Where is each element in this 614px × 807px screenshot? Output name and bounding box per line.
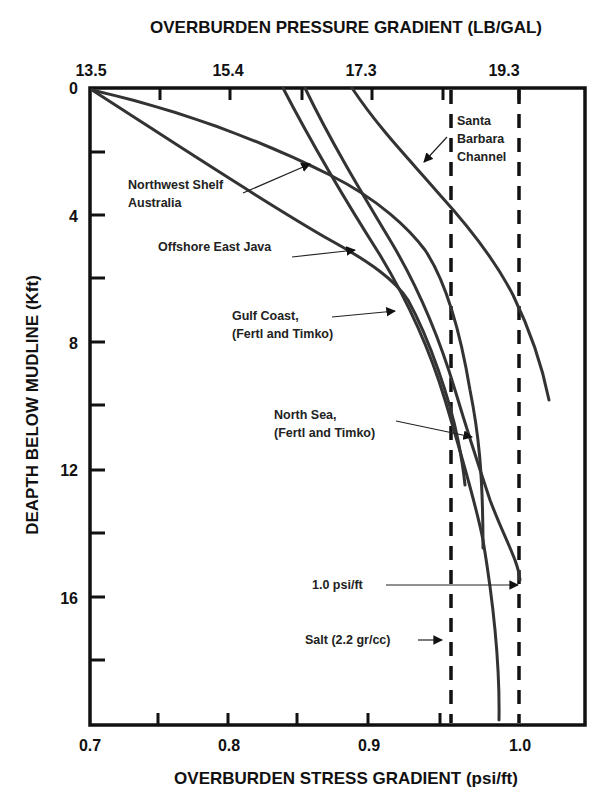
bottom-tick-label: 0.9 bbox=[358, 737, 380, 754]
label-north-sea-2: (Fertl and Timko) bbox=[274, 426, 375, 440]
label-east-java: Offshore East Java bbox=[158, 240, 272, 254]
label-salt: Salt (2.2 gr/cc) bbox=[305, 633, 390, 647]
arrow-nw-shelf bbox=[243, 164, 310, 193]
label-one-psi: 1.0 psi/ft bbox=[312, 578, 364, 592]
arrow-gulf-coast bbox=[332, 311, 395, 317]
curve-gulf-coast bbox=[283, 88, 499, 720]
top-ticks bbox=[160, 88, 519, 100]
y-tick-label: 0 bbox=[69, 80, 78, 97]
arrow-santa-barbara bbox=[424, 137, 447, 162]
label-gulf-coast-1: Gulf Coast, bbox=[232, 309, 299, 323]
arrow-north-sea bbox=[396, 421, 472, 437]
bottom-tick-label: 0.8 bbox=[218, 737, 240, 754]
top-tick-label: 15.4 bbox=[212, 62, 243, 79]
label-santa-barbara-3: Channel bbox=[457, 150, 506, 164]
label-santa-barbara-2: Barbara bbox=[457, 132, 505, 146]
top-axis-title: OVERBURDEN PRESSURE GRADIENT (LB/GAL) bbox=[150, 18, 542, 37]
overburden-chart: OVERBURDEN PRESSURE GRADIENT (LB/GAL) OV… bbox=[0, 0, 614, 807]
y-tick-label: 12 bbox=[60, 462, 78, 479]
label-gulf-coast-2: (Fertl and Timko) bbox=[232, 327, 333, 341]
label-north-sea-1: North Sea, bbox=[274, 408, 337, 422]
bottom-ticks bbox=[158, 713, 440, 725]
left-ticks bbox=[90, 152, 105, 660]
y-tick-label: 16 bbox=[60, 590, 78, 607]
bottom-tick-label: 0.7 bbox=[79, 737, 101, 754]
top-tick-label: 19.3 bbox=[488, 62, 519, 79]
y-tick-label: 8 bbox=[69, 335, 78, 352]
bottom-axis-title: OVERBURDEN STRESS GRADIENT (psi/ft) bbox=[174, 769, 518, 788]
y-tick-label: 4 bbox=[69, 208, 78, 225]
top-tick-label: 13.5 bbox=[75, 62, 106, 79]
top-tick-label: 17.3 bbox=[345, 62, 376, 79]
label-nw-shelf-2: Australia bbox=[128, 196, 183, 210]
bottom-tick-label: 1.0 bbox=[509, 737, 531, 754]
label-nw-shelf-1: Northwest Shelf bbox=[128, 178, 224, 192]
y-axis-title: DEAPTH BELOW MUDLINE (Kft) bbox=[23, 275, 42, 535]
label-santa-barbara-1: Santa bbox=[457, 114, 492, 128]
arrow-east-java bbox=[292, 250, 355, 257]
